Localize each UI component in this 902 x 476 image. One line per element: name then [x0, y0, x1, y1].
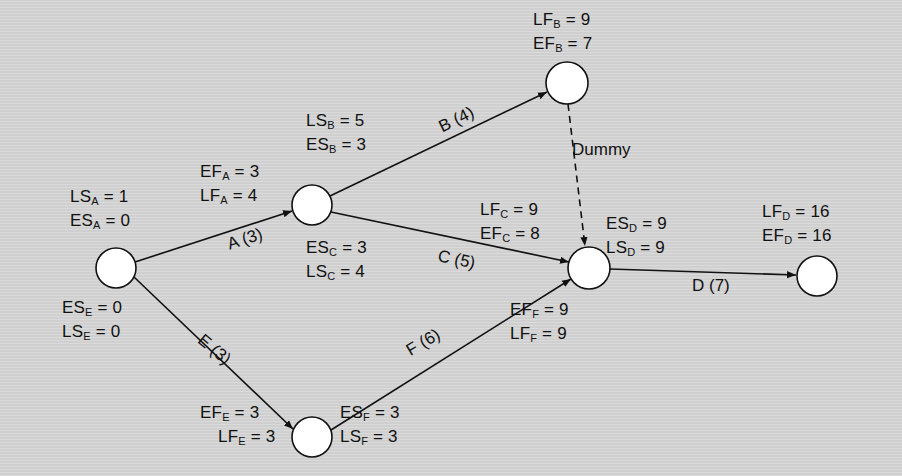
node-1 — [96, 248, 136, 288]
node-2 — [292, 185, 332, 225]
label-ef-a: EFA = 3 — [200, 162, 259, 186]
label-lf-a: LFA = 4 — [200, 186, 257, 210]
label-lf-d: LFD = 16 — [762, 202, 830, 226]
label-ef-d: EFD = 16 — [762, 226, 832, 250]
label-lf-c: LFC = 9 — [480, 200, 538, 224]
node-3 — [546, 62, 588, 104]
label-ef-e: EFE = 3 — [200, 403, 259, 427]
label-ls-f: LSF = 3 — [340, 427, 398, 451]
arrow-dummy — [568, 104, 585, 246]
label-ls-c: LSC = 4 — [306, 262, 365, 286]
label-es-b: ESB = 3 — [306, 135, 366, 159]
label-lf-f: LFF = 9 — [510, 324, 567, 348]
network-diagram: LSA = 1 ESA = 0 ESE = 0 LSE = 0 EFA = 3 … — [0, 0, 902, 476]
label-lf-b: LFB = 9 — [533, 10, 590, 34]
label-ef-c: EFC = 8 — [480, 224, 540, 248]
label-ls-b: LSB = 5 — [306, 111, 364, 135]
label-ls-d: LSD = 9 — [606, 238, 665, 262]
activity-label-dummy: Dummy — [572, 140, 631, 160]
arrow-d — [610, 269, 796, 275]
node-5 — [292, 417, 332, 457]
node-4 — [568, 247, 610, 289]
label-es-c: ESC = 3 — [306, 238, 367, 262]
label-es-e: ESE = 0 — [62, 298, 122, 322]
label-es-d: ESD = 9 — [606, 214, 667, 238]
label-ef-f: EFF = 9 — [510, 300, 569, 324]
label-es-f: ESF = 3 — [340, 403, 400, 427]
activity-label-d: D (7) — [692, 276, 730, 296]
arrow-a — [135, 211, 292, 262]
label-ls-a: LSA = 1 — [70, 187, 128, 211]
label-lf-e: LFE = 3 — [218, 427, 275, 451]
node-6 — [797, 256, 837, 296]
label-ls-e: LSE = 0 — [62, 322, 120, 346]
label-es-a: ESA = 0 — [70, 211, 130, 235]
label-ef-b: EFB = 7 — [533, 34, 592, 58]
